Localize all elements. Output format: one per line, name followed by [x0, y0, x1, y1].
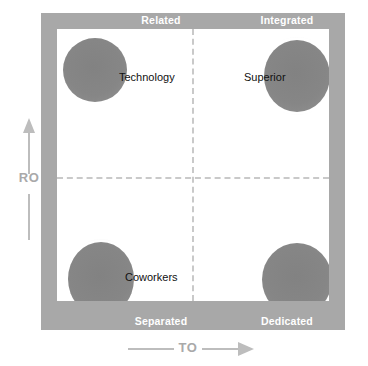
quadrant-divider-horizontal [57, 177, 329, 179]
data-label-coworkers: Coworkers [125, 271, 178, 283]
arrow-right-icon [238, 342, 254, 356]
x-axis-line-right [202, 348, 240, 350]
quadrant-label-dedicated: Dedicated [229, 314, 345, 328]
x-axis-label: TO [174, 340, 202, 355]
x-axis: TO [128, 338, 270, 360]
y-axis-label: RO [14, 170, 44, 185]
data-blob-technology [63, 38, 127, 102]
arrow-up-icon [23, 118, 35, 133]
data-label-technology: Technology [119, 71, 175, 83]
y-axis: RO [14, 118, 44, 242]
plot-area: Technology Superior Coworkers [57, 29, 329, 301]
quadrant-label-related: Related [93, 13, 229, 27]
y-axis-line-upper [28, 132, 30, 174]
matrix-frame: Related Integrated Separated Dedicated T… [41, 13, 345, 330]
data-blob-dedicated [262, 243, 329, 301]
data-label-superior: Superior [244, 71, 286, 83]
quadrant-label-integrated: Integrated [229, 13, 345, 27]
quadrant-divider-vertical [192, 29, 194, 301]
x-axis-line-left [128, 348, 174, 350]
y-axis-line-lower [28, 194, 30, 240]
quadrant-label-separated: Separated [93, 314, 229, 328]
